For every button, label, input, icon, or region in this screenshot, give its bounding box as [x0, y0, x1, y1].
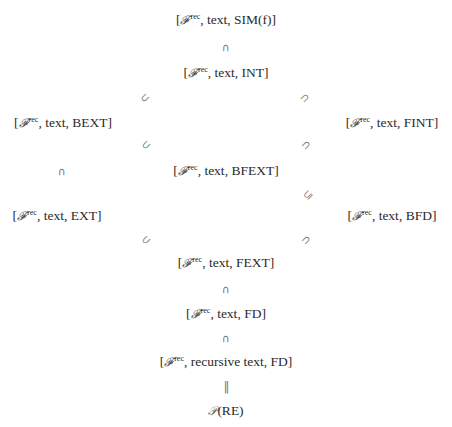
node-second: text: [215, 65, 235, 80]
superset-symbol: ⊃: [299, 233, 313, 247]
node-second: text: [204, 163, 224, 178]
script-p-symbol: 𝒫: [208, 404, 217, 418]
node-third: FD: [271, 354, 288, 369]
script-f-symbol: 𝓕: [180, 13, 189, 27]
node-sim: [𝓕rec, text, SIM(f)]: [176, 13, 276, 27]
node-third: BEXT: [72, 115, 107, 130]
superset-symbol: ⊃: [299, 138, 313, 152]
node-fext: [𝓕rec, text, FEXT]: [178, 256, 274, 270]
subset-symbol: ⊂: [298, 91, 312, 105]
script-f-symbol: 𝓕: [350, 116, 359, 130]
script-f-symbol: 𝓕: [191, 307, 200, 321]
superscript-rec: rec: [192, 255, 202, 264]
script-f-symbol: 𝓕: [178, 164, 187, 178]
node-second: text: [379, 208, 399, 223]
superscript-rec: rec: [201, 306, 211, 315]
subset-symbol: ⊂: [139, 233, 153, 247]
node-third: BFD: [406, 208, 432, 223]
superscript-rec: rec: [360, 115, 370, 124]
intersection-symbol: ∩: [58, 166, 66, 177]
node-second: recursive text: [191, 354, 264, 369]
superset-symbol: ⊃: [138, 91, 152, 105]
node-third: FEXT: [236, 255, 270, 270]
node-second: text: [45, 115, 65, 130]
intersection-symbol: ∩: [222, 42, 230, 53]
superscript-rec: rec: [27, 208, 37, 217]
node-second: text: [377, 115, 397, 130]
node-bfext: [𝓕rec, text, BFEXT]: [173, 164, 278, 178]
node-third: BFEXT: [231, 163, 274, 178]
node-third: INT: [242, 65, 265, 80]
script-f-symbol: 𝓕: [188, 66, 197, 80]
superscript-rec: rec: [190, 12, 200, 21]
superscript-rec: rec: [174, 354, 184, 363]
node-second: text: [207, 12, 227, 27]
node-re: 𝒫(RE): [208, 404, 243, 418]
node-third: FINT: [404, 115, 434, 130]
node-second: text: [209, 255, 229, 270]
node-third: SIM(f): [234, 12, 272, 27]
intersection-symbol: ∩: [222, 333, 230, 344]
superscript-rec: rec: [188, 163, 198, 172]
script-f-symbol: 𝓕: [352, 209, 361, 223]
script-f-symbol: 𝓕: [17, 209, 26, 223]
node-third: EXT: [71, 208, 97, 223]
node-fd: [𝓕rec, text, FD]: [186, 307, 266, 321]
equality-symbol: ‖: [224, 381, 229, 393]
script-f-symbol: 𝓕: [182, 256, 191, 270]
script-f-symbol: 𝓕: [19, 116, 28, 130]
superscript-rec: rec: [362, 208, 372, 217]
superscript-rec: rec: [198, 65, 208, 74]
intersection-symbol: ∩: [222, 284, 230, 295]
script-f-symbol: 𝓕: [164, 355, 173, 369]
node-second: text: [217, 306, 237, 321]
node-third: FD: [244, 306, 261, 321]
subset-equal-symbol: ⊆: [301, 188, 315, 202]
node-second: text: [44, 208, 64, 223]
subset-symbol: ⊂: [139, 138, 153, 152]
node-bfd: [𝓕rec, text, BFD]: [348, 209, 437, 223]
superscript-rec: rec: [29, 115, 39, 124]
node-bext: [𝓕rec, text, BEXT]: [14, 116, 112, 130]
node-recursive-fd: [𝓕rec, recursive text, FD]: [160, 355, 293, 369]
node-int: [𝓕rec, text, INT]: [183, 66, 268, 80]
node-ext: [𝓕rec, text, EXT]: [13, 209, 102, 223]
node-fint: [𝓕rec, text, FINT]: [346, 116, 439, 130]
node-text: (RE): [217, 403, 243, 418]
